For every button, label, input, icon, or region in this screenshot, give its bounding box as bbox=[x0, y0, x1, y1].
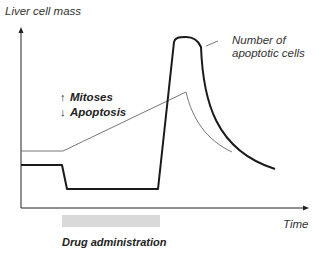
x-axis-label: Time bbox=[283, 218, 308, 230]
y-axis-label: Liver cell mass bbox=[5, 5, 81, 17]
annotation-leader-line bbox=[206, 41, 218, 46]
arrow-down-icon: ↓ bbox=[60, 105, 67, 120]
legend: ↑ Mitoses ↓ Apoptosis bbox=[60, 90, 126, 120]
legend-mitoses: ↑ Mitoses bbox=[60, 90, 126, 105]
drug-administration-label: Drug administration bbox=[62, 236, 167, 248]
apoptotic-cells-annotation: Number of apoptotic cells bbox=[232, 34, 305, 60]
liver-cell-mass-curve bbox=[21, 92, 232, 152]
x-axis-arrow-icon bbox=[303, 206, 309, 211]
apoptosis-label: Apoptosis bbox=[70, 105, 126, 120]
drug-administration-bar bbox=[62, 215, 160, 227]
y-axis-arrow-icon bbox=[19, 27, 24, 33]
annotation-line-1: Number of bbox=[232, 34, 305, 47]
annotation-line-2: apoptotic cells bbox=[232, 47, 305, 60]
legend-apoptosis: ↓ Apoptosis bbox=[60, 105, 126, 120]
mitoses-label: Mitoses bbox=[70, 90, 113, 105]
arrow-up-icon: ↑ bbox=[60, 90, 67, 105]
